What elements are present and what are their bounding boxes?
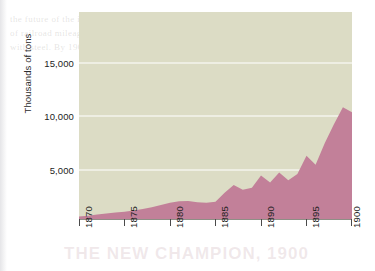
x-tick-label: 1875: [128, 206, 139, 228]
x-tick-label: 1895: [310, 206, 321, 228]
y-axis-tick-labels: 15,000 10,000 5,000: [26, 0, 74, 271]
area-chart-figure: Thousands of tons 15,000 10,000 5,000 18…: [0, 0, 375, 271]
x-tick-mark: [261, 219, 262, 226]
x-tick-mark: [215, 219, 216, 226]
chart-canvas: [79, 12, 352, 219]
x-tick-label: 1880: [174, 206, 185, 228]
x-tick-mark: [170, 219, 171, 226]
area-series-steel-production: [79, 107, 352, 219]
x-tick-label: 1900: [351, 206, 362, 228]
x-tick-mark: [306, 219, 307, 226]
gridlines: [79, 63, 352, 170]
y-tick-label: 10,000: [28, 111, 74, 122]
y-tick-label: 5,000: [28, 165, 74, 176]
x-tick-label: 1885: [219, 206, 230, 228]
x-tick-label: 1890: [265, 206, 276, 228]
x-tick-mark: [79, 219, 80, 226]
x-axis-tick-labels: 1870 1875 1880 1885 1890 1895 1900: [79, 219, 352, 271]
x-tick-label: 1870: [83, 206, 94, 228]
x-tick-mark: [124, 219, 125, 226]
plot-area: [79, 12, 352, 219]
y-tick-label: 15,000: [28, 58, 74, 69]
